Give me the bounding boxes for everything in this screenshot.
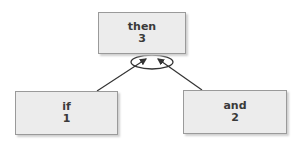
node-then-value: 3 [138, 33, 146, 45]
junction-ellipse [131, 55, 173, 69]
node-then: then 3 [98, 12, 186, 54]
node-if: if 1 [15, 91, 118, 135]
arrow-right-to-top [158, 59, 202, 90]
arrow-left-to-top [97, 59, 146, 91]
node-if-value: 1 [63, 113, 71, 125]
node-and: and 2 [183, 90, 287, 134]
node-and-value: 2 [231, 112, 239, 124]
